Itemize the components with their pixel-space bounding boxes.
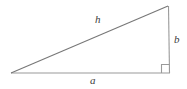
right-triangle-figure: h b a (0, 0, 187, 89)
vertical-leg-label: b (174, 34, 180, 45)
right-angle-marker-icon (162, 65, 170, 74)
vertical-leg-line (169, 6, 170, 73)
horizontal-leg-label: a (90, 75, 96, 86)
hypotenuse-label: h (95, 14, 101, 25)
hypotenuse-line (11, 6, 168, 73)
